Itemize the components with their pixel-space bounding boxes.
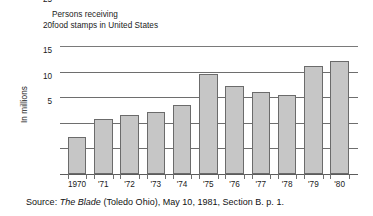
- source-publication: The Blade: [60, 197, 101, 207]
- y-axis-ticks: 510152025: [0, 0, 58, 128]
- bar: [199, 74, 217, 174]
- x-tick-mark: [304, 174, 305, 179]
- x-tick-mark: [218, 174, 219, 179]
- source-caption: Source: The Blade (Toledo Ohio), May 10,…: [26, 196, 284, 208]
- x-tick-mark: [296, 174, 297, 179]
- x-tick-mark: [165, 174, 166, 179]
- chart-figure: Persons receiving food stamps in United …: [0, 0, 373, 216]
- bar: [173, 105, 191, 174]
- x-tick-mark: [330, 174, 331, 179]
- bar: [120, 115, 138, 174]
- x-tick-mark: [68, 174, 69, 179]
- bar-series: [60, 46, 358, 174]
- x-axis-line: [60, 174, 358, 175]
- x-tick-mark: [252, 174, 253, 179]
- x-tick-mark: [113, 174, 114, 179]
- bar: [330, 61, 348, 174]
- y-tick-label: 10: [43, 73, 52, 81]
- plot-area: [60, 46, 358, 174]
- chart-title: Persons receiving food stamps in United …: [52, 9, 158, 31]
- y-tick-label: 25: [43, 0, 52, 4]
- x-tick-label: '80: [325, 180, 355, 190]
- x-tick-mark: [244, 174, 245, 179]
- x-tick-mark: [173, 174, 174, 179]
- bar: [68, 137, 86, 174]
- x-tick-mark: [94, 174, 95, 179]
- bar: [94, 119, 112, 174]
- x-tick-mark: [139, 174, 140, 179]
- x-tick-mark: [323, 174, 324, 179]
- x-tick-mark: [349, 174, 350, 179]
- x-tick-mark: [191, 174, 192, 179]
- x-tick-mark: [147, 174, 148, 179]
- y-tick-label: 5: [47, 98, 52, 106]
- x-tick-mark: [120, 174, 121, 179]
- bar: [304, 66, 322, 174]
- x-tick-mark: [86, 174, 87, 179]
- bar: [278, 95, 296, 174]
- bar: [225, 86, 243, 174]
- x-tick-mark: [270, 174, 271, 179]
- chart-title-line-1: Persons receiving: [52, 9, 158, 20]
- x-tick-mark: [225, 174, 226, 179]
- source-prefix: Source:: [26, 197, 60, 207]
- bar: [252, 92, 270, 174]
- x-tick-mark: [278, 174, 279, 179]
- y-tick-label: 20: [43, 22, 52, 30]
- x-tick-mark: [199, 174, 200, 179]
- source-suffix: (Toledo Ohio), May 10, 1981, Section B. …: [101, 197, 284, 207]
- bar: [147, 112, 165, 174]
- chart-title-line-2: food stamps in United States: [52, 20, 158, 31]
- y-tick-label: 15: [43, 47, 52, 55]
